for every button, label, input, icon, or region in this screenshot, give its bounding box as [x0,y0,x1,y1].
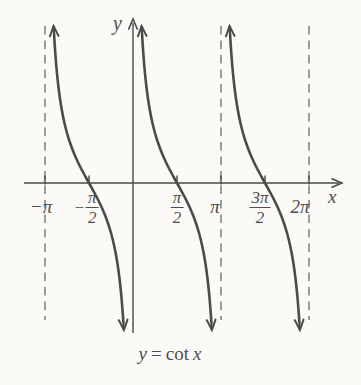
caption-y: y [139,343,147,364]
y-axis-label: y [113,12,122,35]
caption-x: x [193,343,201,364]
x-axis-label: x [328,186,336,208]
x-tick-label: 2π [290,196,309,218]
caption: y=cotx [90,343,250,365]
caption-equals: = [151,343,162,364]
x-tick-label: π [210,196,220,218]
x-tick-label: −π [30,196,52,218]
x-tick-label: −π2 [73,189,98,227]
x-tick-label: 3π2 [249,189,270,227]
minus-sign: − [73,199,84,216]
cotangent-figure: y x −π−π2π2π3π22π y=cotx [0,0,361,385]
caption-func: cot [166,343,189,364]
x-tick-label: π2 [171,189,184,227]
axes-group [24,19,342,333]
